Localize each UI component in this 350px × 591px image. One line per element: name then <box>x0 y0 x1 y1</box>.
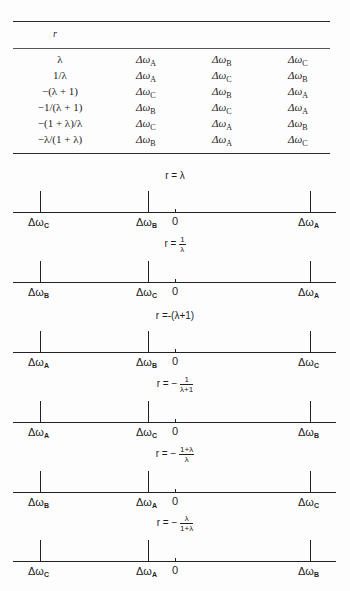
diagram-equation: r = 1λ <box>0 235 350 254</box>
table-cell-col1: ΔωC <box>136 85 156 100</box>
equation-fraction: λ1+λ <box>180 514 193 533</box>
zero-tick <box>175 419 176 423</box>
diagram-equation: r = − λ1+λ <box>0 514 350 533</box>
zero-tick <box>175 558 176 562</box>
equation-fraction: 1λ <box>179 235 185 254</box>
diagram-equation: r = λ <box>0 170 350 181</box>
table-cell-r: −λ/(1 + λ) <box>20 133 100 145</box>
table-cell-col3: ΔωA <box>288 101 308 116</box>
table-cell-col3: ΔωA <box>288 85 308 100</box>
line-tick-left <box>40 471 41 492</box>
line-label-right: ΔωB <box>298 426 319 439</box>
line-tick-left <box>40 401 41 422</box>
line-label-left: ΔωC <box>28 565 49 578</box>
line-label-left: ΔωA <box>28 356 49 369</box>
table-cell-col3: ΔωB <box>288 117 308 132</box>
line-tick-right <box>310 540 311 561</box>
line-label-right: ΔωB <box>298 565 319 578</box>
table-cell-col1: ΔωB <box>136 101 156 116</box>
line-label-left: ΔωC <box>28 216 49 229</box>
equation-fraction: 1+λλ <box>179 445 194 464</box>
zero-tick <box>175 279 176 283</box>
diagram-equation: r =-(λ+1) <box>0 310 350 321</box>
line-label-middle: ΔωB <box>136 216 157 229</box>
table-cell-col1: ΔωA <box>136 69 156 84</box>
line-label-right: ΔωC <box>298 356 319 369</box>
zero-label: 0 <box>172 564 178 576</box>
table-cell-col2: ΔωC <box>212 101 232 116</box>
diagram-equation: r = − 1+λλ <box>0 445 350 464</box>
table-cell-col2: ΔωA <box>212 133 232 148</box>
line-label-left: ΔωA <box>28 426 49 439</box>
table-cell-col1: ΔωC <box>136 117 156 132</box>
table-cell-col2: ΔωA <box>212 117 232 132</box>
line-label-middle: ΔωC <box>136 286 157 299</box>
line-tick-middle <box>148 471 149 492</box>
line-tick-middle <box>148 331 149 352</box>
table-cell-r: 1/λ <box>20 69 100 81</box>
diagram-equation: r = − 1λ+1 <box>0 375 350 394</box>
line-tick-middle <box>148 540 149 561</box>
line-tick-middle <box>148 261 149 282</box>
table-cell-r: −(1 + λ)/λ <box>20 117 100 129</box>
table-cell-col3: ΔωC <box>288 133 308 148</box>
table-cell-col2: ΔωB <box>212 85 232 100</box>
line-label-middle: ΔωB <box>136 356 157 369</box>
line-tick-left <box>40 191 41 212</box>
zero-label: 0 <box>172 285 178 297</box>
zero-tick <box>175 349 176 353</box>
table-cell-col3: ΔωB <box>288 69 308 84</box>
line-tick-right <box>310 261 311 282</box>
zero-label: 0 <box>172 495 178 507</box>
line-label-middle: ΔωC <box>136 426 157 439</box>
line-tick-left <box>40 540 41 561</box>
line-label-left: ΔωB <box>28 286 49 299</box>
line-tick-middle <box>148 191 149 212</box>
line-label-right: ΔωA <box>298 286 319 299</box>
table-cell-r: −1/(λ + 1) <box>20 101 100 113</box>
line-tick-left <box>40 331 41 352</box>
table-cell-col2: ΔωC <box>212 69 232 84</box>
zero-tick <box>175 489 176 493</box>
line-tick-right <box>310 331 311 352</box>
table-bottom-rule <box>13 153 330 154</box>
table-cell-r: −(λ + 1) <box>20 85 100 97</box>
zero-label: 0 <box>172 355 178 367</box>
line-tick-right <box>310 191 311 212</box>
zero-label: 0 <box>172 215 178 227</box>
line-label-middle: ΔωA <box>136 496 157 509</box>
line-tick-left <box>40 261 41 282</box>
line-label-right: ΔωA <box>298 216 319 229</box>
line-tick-right <box>310 471 311 492</box>
line-label-right: ΔωC <box>298 496 319 509</box>
line-label-middle: ΔωA <box>136 565 157 578</box>
equation-fraction: 1λ+1 <box>180 375 193 394</box>
table-cell-col1: ΔωB <box>136 133 156 148</box>
zero-tick <box>175 209 176 213</box>
line-label-left: ΔωB <box>28 496 49 509</box>
energy-diagram: r = − λ1+λΔωCΔωAΔωB0 <box>0 0 350 70</box>
zero-label: 0 <box>172 425 178 437</box>
line-tick-middle <box>148 401 149 422</box>
line-tick-right <box>310 401 311 422</box>
